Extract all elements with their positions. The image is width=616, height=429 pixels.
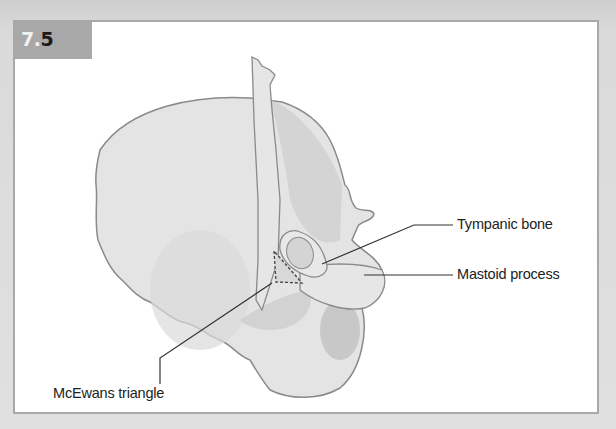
skull-illustration: [0, 0, 616, 429]
label-tympanic-bone: Tympanic bone: [457, 216, 553, 232]
shade-parietal: [150, 230, 250, 350]
label-mcewans-triangle: McEwans triangle: [53, 385, 164, 401]
label-mastoid-process: Mastoid process: [457, 266, 560, 282]
